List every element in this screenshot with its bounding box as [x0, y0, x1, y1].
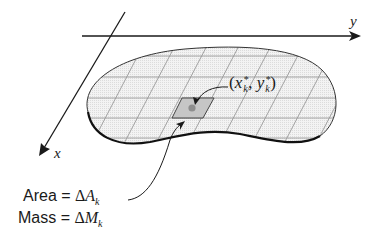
- delta-symbol: Δ: [75, 187, 85, 204]
- area-symbol: A: [85, 187, 95, 204]
- mass-symbol: M: [85, 209, 98, 226]
- y-axis: [82, 31, 361, 41]
- area-subscript: k: [95, 196, 99, 207]
- separator: ,: [248, 73, 257, 92]
- lamina-diagram: y x (x*k, y*k) Area = ΔAk Mass = ΔMk: [0, 0, 375, 241]
- area-annotation: Area = ΔAk: [23, 188, 100, 207]
- mass-annotation: Mass = ΔMk: [18, 210, 103, 229]
- sample-point-icon: [188, 104, 195, 111]
- mass-text: Mass =: [18, 209, 74, 226]
- delta-symbol: Δ: [74, 209, 84, 226]
- area-text: Area =: [23, 187, 75, 204]
- paren-close: ): [270, 73, 276, 92]
- x-axis-label: x: [54, 146, 61, 161]
- y-axis-label: y: [350, 14, 357, 29]
- y-symbol: y: [257, 73, 265, 92]
- x-symbol: x: [235, 73, 243, 92]
- x-axis-arrowhead-icon: [39, 143, 50, 156]
- mass-subscript: k: [98, 218, 102, 229]
- sample-point-label: (x*k, y*k): [229, 74, 276, 93]
- region-R: [54, 40, 370, 155]
